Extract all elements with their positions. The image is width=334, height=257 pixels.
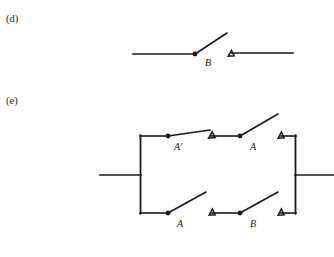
part-e-group: (e) A′ A: [6, 95, 334, 229]
top-switch-A-label: A: [249, 141, 257, 152]
switch-diagram-canvas: (d) B (e): [0, 0, 334, 257]
top-switch-A-blade[interactable]: [240, 114, 278, 136]
part-d-switch-B-blade[interactable]: [195, 33, 227, 54]
top-switch-A-prime-terminal-tick: [209, 132, 216, 138]
top-switch-A-pivot-dot: [238, 134, 243, 139]
bottom-switch-A-blade[interactable]: [168, 192, 206, 213]
part-e-label: (e): [6, 95, 18, 107]
part-e-top-branch: A′ A: [140, 114, 296, 152]
top-switch-A-terminal-tick: [278, 132, 284, 138]
bottom-switch-A-label: A: [176, 218, 184, 229]
part-d-switch-B-pivot-dot: [193, 52, 198, 57]
bottom-switch-B-blade[interactable]: [240, 192, 278, 213]
top-switch-A-prime-pivot-dot: [166, 134, 171, 139]
figure-root: (d) B (e): [0, 0, 334, 257]
bottom-switch-A-terminal-tick: [209, 209, 215, 215]
part-d-switch-B-label: B: [205, 57, 211, 68]
bottom-switch-B-label: B: [250, 218, 256, 229]
bottom-switch-A-pivot-dot: [166, 211, 171, 216]
top-switch-A-prime-blade[interactable]: [168, 130, 210, 136]
part-d-label: (d): [6, 13, 19, 25]
bottom-switch-B-pivot-dot: [238, 211, 243, 216]
part-d-group: (d) B: [6, 13, 293, 68]
top-switch-A-prime-label: A′: [173, 141, 183, 152]
part-e-bottom-branch: A B: [140, 192, 296, 229]
bottom-switch-B-terminal-tick: [278, 209, 284, 215]
